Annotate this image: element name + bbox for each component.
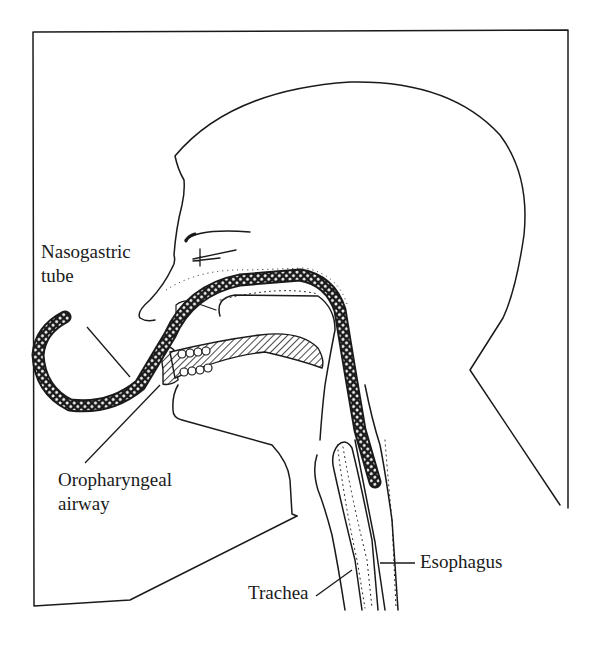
label-nasogastric: Nasogastric tube [41,240,131,288]
label-oropharyngeal: Oropharyngeal airway [58,468,172,516]
nostril [193,249,236,266]
leader-nasogastric [87,327,130,377]
diagram-canvas [0,0,595,660]
label-esophagus: Esophagus [420,550,502,574]
chin-neck [173,385,297,516]
palate [219,295,335,440]
label-trachea: Trachea [248,581,309,605]
oropharyngeal-airway [160,334,323,385]
leader-trachea [316,570,352,596]
esophagus [365,385,398,610]
frame-border [33,30,568,606]
